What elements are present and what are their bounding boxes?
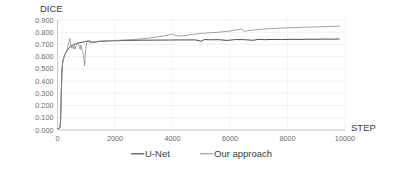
y-axis-title: DICE [40, 3, 63, 14]
y-tick-label: 0.400 [35, 77, 53, 86]
y-tick-label: 0.900 [35, 16, 53, 25]
y-tick-label: 0.600 [35, 52, 53, 61]
x-tick-label: 2000 [107, 134, 123, 143]
x-axis-title-group: STEP [351, 122, 376, 133]
x-tick-label: 10000 [335, 134, 355, 143]
dice-vs-step-line-chart: DICE STEP 0.0000.1000.2000.3000.4000.500… [0, 0, 393, 169]
x-tick-label: 8000 [279, 134, 295, 143]
y-axis-title-group: DICE [40, 3, 63, 14]
x-tick-label: 6000 [222, 134, 238, 143]
y-tick-label: 0.300 [35, 89, 53, 98]
x-axis-title: STEP [351, 122, 376, 133]
chart-background [0, 0, 393, 169]
legend-label-u-net: U-Net [145, 148, 170, 159]
x-tick-label: 0 [55, 134, 59, 143]
legend-label-our-approach: Our approach [214, 148, 272, 159]
y-tick-label: 0.100 [35, 113, 53, 122]
y-tick-label: 0.200 [35, 101, 53, 110]
y-tick-label: 0.000 [35, 126, 53, 135]
y-tick-label: 0.500 [35, 64, 53, 73]
y-tick-label: 0.800 [35, 28, 53, 37]
x-tick-label: 4000 [164, 134, 180, 143]
y-tick-label: 0.700 [35, 40, 53, 49]
